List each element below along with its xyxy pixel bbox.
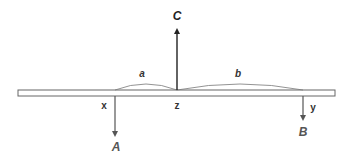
distance-label-b: b: [235, 68, 241, 79]
beam: [18, 90, 335, 96]
force-label-c: C: [173, 9, 182, 23]
distance-brace-b: [177, 84, 303, 90]
distance-brace-a: [115, 84, 177, 90]
distance-label-a: a: [139, 68, 145, 79]
beam-diagram: C A B x z y a b: [0, 0, 351, 162]
point-label-x: x: [101, 100, 107, 111]
force-label-a: A: [111, 140, 121, 154]
force-label-b: B: [299, 125, 308, 139]
point-label-z: z: [175, 100, 180, 111]
point-label-y: y: [310, 102, 316, 113]
